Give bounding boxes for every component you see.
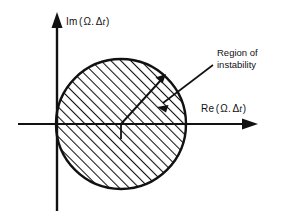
stability-region-diagram: Im(Ω.Δt) Re(Ω.Δt) Region of instability [0,0,287,221]
annotation-line-1: Region of [217,47,258,58]
re-open-paren: ( [216,103,220,114]
imaginary-axis-label: Im(Ω.Δt) [66,16,110,27]
figure-container: Im(Ω.Δt) Re(Ω.Δt) Region of instability [0,0,287,221]
real-axis-label: Re(Ω.Δt) [201,103,246,114]
re-prefix: Re [201,103,214,114]
im-close-paren: ) [106,16,110,27]
im-open-paren: ( [79,16,83,27]
annotation-line-2: instability [217,59,256,70]
re-close-paren: ) [243,103,247,114]
im-dot: . [91,16,94,27]
im-prefix: Im [66,16,78,27]
re-dot: . [228,103,231,114]
